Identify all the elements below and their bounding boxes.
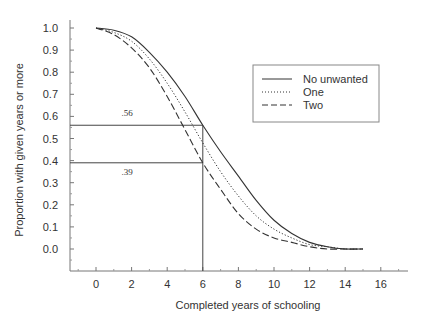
- legend: No unwantedOneTwo: [253, 65, 379, 122]
- y-tick-label: 0.0: [43, 243, 58, 255]
- y-tick-label: 0.1: [43, 221, 58, 233]
- y-tick-label: 0.4: [43, 155, 58, 167]
- x-tick-label: 2: [129, 278, 135, 290]
- legend-label: Two: [303, 99, 323, 111]
- y-tick-label: 0.6: [43, 110, 58, 122]
- x-tick-label: 4: [164, 278, 170, 290]
- x-tick-label: 16: [375, 278, 387, 290]
- legend-label: One: [303, 86, 324, 98]
- x-tick-label: 12: [303, 278, 315, 290]
- legend-label: No unwanted: [303, 73, 368, 85]
- y-tick-label: 0.9: [43, 44, 58, 56]
- y-tick-label: 0.7: [43, 88, 58, 100]
- series-line-one: [96, 28, 363, 249]
- x-axis-title: Completed years of schooling: [176, 299, 321, 311]
- y-tick-label: 0.8: [43, 66, 58, 78]
- series-lines: [96, 28, 363, 249]
- annotation-label: .56: [121, 108, 133, 118]
- series-line-two: [96, 28, 363, 249]
- line-chart: 1.00.90.80.70.60.50.40.30.20.10.00246810…: [0, 0, 424, 328]
- x-tick-label: 10: [268, 278, 280, 290]
- y-tick-label: 1.0: [43, 22, 58, 34]
- reference-lines: .56.39: [70, 108, 203, 271]
- y-tick-label: 0.3: [43, 177, 58, 189]
- annotation-label: .39: [121, 167, 133, 177]
- y-tick-label: 0.2: [43, 199, 58, 211]
- x-tick-label: 8: [235, 278, 241, 290]
- y-axis-title: Proportion with given years or more: [13, 63, 25, 237]
- x-tick-label: 6: [200, 278, 206, 290]
- series-line-no-unwanted: [96, 28, 363, 249]
- y-tick-label: 0.5: [43, 133, 58, 145]
- x-tick-label: 0: [93, 278, 99, 290]
- x-tick-label: 14: [339, 278, 351, 290]
